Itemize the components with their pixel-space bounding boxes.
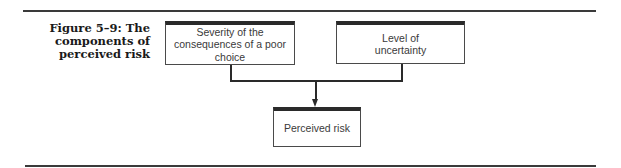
arrow-down-icon bbox=[312, 99, 318, 107]
figure-caption: Figure 5–9: The components of perceived … bbox=[40, 22, 150, 61]
bottom-rule bbox=[25, 165, 596, 167]
node-severity-label: Severity of the consequences of a poor c… bbox=[166, 26, 294, 64]
connector-horizontal bbox=[230, 80, 403, 82]
connector-severity-down bbox=[230, 65, 232, 81]
connector-to-result bbox=[315, 80, 317, 100]
node-severity: Severity of the consequences of a poor c… bbox=[165, 21, 295, 65]
node-uncertainty: Level of uncertainty bbox=[336, 21, 465, 64]
node-uncertainty-label: Level of uncertainty bbox=[337, 32, 464, 57]
connector-uncertainty-down bbox=[401, 64, 403, 81]
node-perceived-risk-label: Perceived risk bbox=[284, 122, 350, 135]
top-rule bbox=[23, 10, 596, 12]
node-perceived-risk: Perceived risk bbox=[273, 107, 361, 147]
